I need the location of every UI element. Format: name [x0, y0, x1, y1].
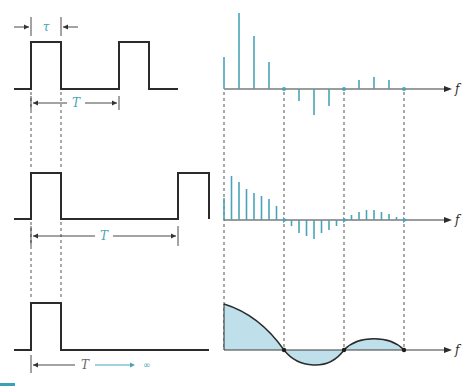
infinity-label: ∞ [143, 360, 151, 370]
tau-label: τ [43, 20, 50, 34]
period-label-middle: T [100, 229, 109, 243]
time-signal-top: τ T [14, 17, 178, 110]
single-pulse [14, 303, 209, 350]
accent-bar [0, 383, 15, 386]
time-signal-middle: T [14, 173, 209, 246]
period-label-top: T [72, 96, 81, 110]
pulse-train-top [14, 42, 178, 89]
sinc-envelope-fill [224, 304, 404, 365]
pulse-train-middle [14, 173, 209, 219]
axis-arrow-icon [444, 86, 452, 92]
time-guides [31, 92, 61, 300]
spectrum-top: f [224, 13, 462, 115]
axis-arrow-icon [444, 217, 452, 223]
spectrum-bottom: f [224, 304, 462, 365]
freq-label-middle: f [454, 213, 462, 227]
fourier-pulse-spectrum-diagram: τ T f T [0, 0, 472, 388]
spectrum-middle: f [224, 176, 462, 239]
period-label-bottom: T [81, 358, 90, 372]
axis-arrow-icon [444, 347, 452, 353]
time-signal-bottom: T ∞ [14, 303, 209, 373]
freq-label-top: f [454, 82, 462, 96]
freq-label-bottom: f [454, 343, 462, 357]
